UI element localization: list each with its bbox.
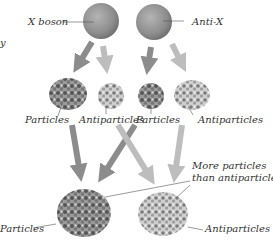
antiparticles-label-1: Antiparticles [79, 114, 144, 125]
asymmetry-note-line1: More particles [192, 160, 266, 171]
final-antiparticles-label: Antiparticles [205, 223, 270, 234]
particle-cluster-2 [138, 83, 164, 109]
final-antiparticles-cluster [138, 192, 188, 236]
final-particles-label: Particles [0, 223, 44, 234]
anti-x-label: Anti-X [192, 16, 223, 27]
particle-cluster-1 [49, 78, 87, 110]
final-particles-cluster [57, 189, 111, 237]
antiparticle-cluster-2 [174, 80, 210, 110]
crossing-arrows [72, 125, 182, 177]
top-arrows [78, 42, 182, 66]
antiparticle-cluster-1 [98, 83, 124, 109]
antiparticles-label-2: Antiparticles [198, 114, 263, 125]
edge-text-fragment: y [0, 37, 6, 48]
anti-x-sphere [136, 4, 172, 40]
asymmetry-note-line2: than antiparticles [192, 172, 273, 183]
particles-label-1: Particles [25, 114, 69, 125]
x-boson-sphere [83, 3, 119, 39]
particles-label-2: Particles [136, 114, 180, 125]
x-boson-label: X boson [28, 16, 68, 27]
